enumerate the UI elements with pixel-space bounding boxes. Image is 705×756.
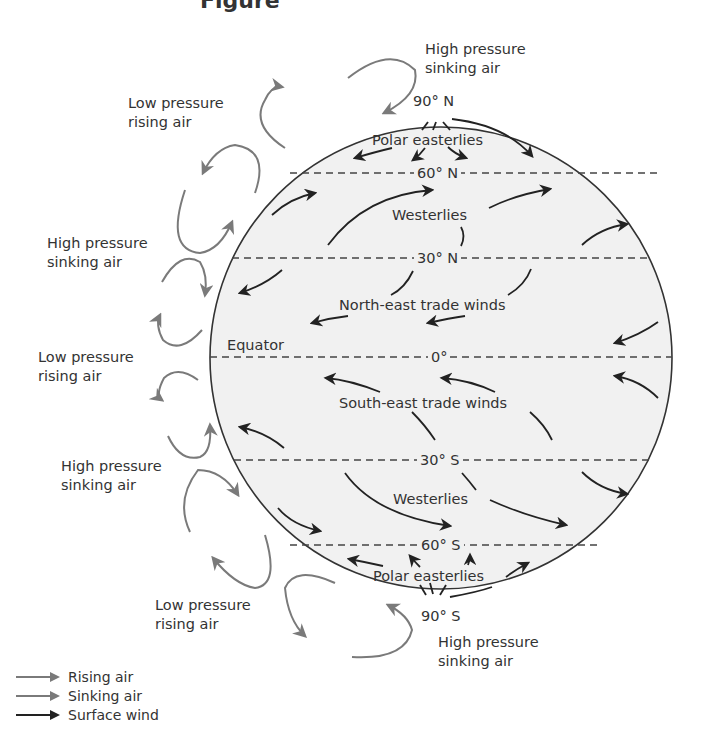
pressure-label-low-equator: Low pressure rising air: [38, 348, 134, 386]
pressure-label-high-30n: High pressure sinking air: [47, 234, 148, 272]
rising-air-arrow: [213, 535, 271, 588]
latitude-label-90s: 90° S: [421, 607, 461, 626]
equator-label: Equator: [227, 337, 284, 353]
legend-item-surface-wind: Surface wind: [14, 705, 159, 724]
sinking-air-arrow: [352, 605, 412, 657]
wind-belt-polar-easterlies-north: Polar easterlies: [372, 132, 483, 148]
latitude-label-90n: 90° N: [413, 92, 454, 111]
rising-air-arrow: [168, 425, 210, 458]
pressure-label-line1: High pressure: [425, 40, 526, 59]
pressure-label-top-high: High pressure sinking air: [425, 40, 526, 78]
pressure-label-line2: rising air: [128, 113, 224, 132]
wind-belt-westerlies-south: Westerlies: [393, 491, 468, 507]
pressure-label-line2: sinking air: [438, 652, 539, 671]
wind-belt-westerlies-north: Westerlies: [392, 207, 467, 223]
rising-air-arrow: [158, 315, 202, 346]
sinking-air-arrow: [285, 575, 335, 636]
pressure-label-line2: sinking air: [61, 476, 162, 495]
latitude-label-30n: 30° N: [414, 250, 461, 266]
pressure-label-line1: Low pressure: [38, 348, 134, 367]
pressure-label-line2: sinking air: [425, 59, 526, 78]
sinking-air-arrow: [162, 259, 206, 295]
legend-label: Surface wind: [68, 707, 159, 723]
rising-air-arrow-icon: [14, 672, 60, 682]
pressure-label-line1: High pressure: [47, 234, 148, 253]
pressure-label-line2: rising air: [38, 367, 134, 386]
legend-label: Sinking air: [68, 688, 142, 704]
surface-wind-arrow: [379, 112, 382, 118]
pressure-label-line2: sinking air: [47, 253, 148, 272]
pressure-label-line1: High pressure: [438, 633, 539, 652]
sinking-air-arrow: [159, 372, 198, 400]
latitude-label-60s: 60° S: [418, 537, 464, 553]
pressure-label-line1: Low pressure: [155, 596, 251, 615]
sinking-air-arrow: [184, 470, 238, 532]
sinking-air-arrow: [348, 59, 416, 113]
pressure-label-line1: Low pressure: [128, 94, 224, 113]
pressure-label-high-30s: High pressure sinking air: [61, 457, 162, 495]
latitude-label-60n: 60° N: [414, 165, 461, 181]
wind-belt-polar-easterlies-south: Polar easterlies: [373, 568, 484, 584]
pressure-label-line1: High pressure: [61, 457, 162, 476]
pressure-label-bottom-high: High pressure sinking air: [438, 633, 539, 671]
pressure-label-low-60s: Low pressure rising air: [155, 596, 251, 634]
rising-air-arrow: [178, 190, 232, 253]
latitude-label-30s: 30° S: [417, 452, 463, 468]
rising-air-arrow: [203, 145, 260, 193]
rising-air-arrow: [261, 87, 286, 148]
wind-belt-ne-trades: North-east trade winds: [339, 297, 506, 313]
wind-belt-se-trades: South-east trade winds: [339, 395, 507, 411]
pressure-label-low-60n: Low pressure rising air: [128, 94, 224, 132]
legend-item-sinking-air: Sinking air: [14, 686, 159, 705]
legend-label: Rising air: [68, 669, 133, 685]
pressure-label-line2: rising air: [155, 615, 251, 634]
legend: Rising air Sinking air Surface wind: [14, 667, 159, 724]
surface-wind-arrow-icon: [14, 710, 60, 720]
legend-item-rising-air: Rising air: [14, 667, 159, 686]
sinking-air-arrow-icon: [14, 691, 60, 701]
latitude-label-equator-deg: 0°: [428, 349, 450, 365]
